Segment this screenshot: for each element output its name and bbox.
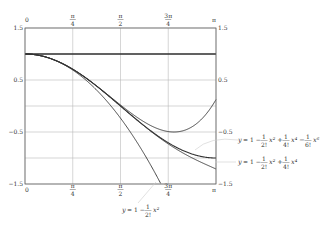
x-tick-denominator: 2 xyxy=(119,190,123,197)
fraction-denominator: 2! xyxy=(261,141,267,148)
annotation-text: x² + xyxy=(269,158,283,166)
annotation-text: x² xyxy=(153,206,160,214)
y-tick-left: −0.5 xyxy=(8,128,23,135)
fraction-numerator: 1 xyxy=(262,155,266,162)
x-tick-numerator: π xyxy=(119,12,123,19)
x-tick-numerator: 3π xyxy=(164,182,172,189)
annotation-text: y xyxy=(237,158,242,166)
leader-line xyxy=(195,139,238,150)
curve-order-2 xyxy=(25,54,161,183)
fraction-numerator: 1 xyxy=(146,203,150,210)
x-tick-top: π xyxy=(212,16,216,23)
label-fourth-order: y= 1 −12!x² +14!x⁴ xyxy=(215,155,298,170)
y-tick-right: 1.5 xyxy=(218,24,228,31)
x-tick-top: π4 xyxy=(70,12,76,27)
annotation-text: = 1 − xyxy=(243,136,261,143)
x-tick-top: π2 xyxy=(118,12,124,27)
x-tick-bottom: π xyxy=(212,186,216,193)
x-tick-numerator: π xyxy=(71,12,75,19)
x-tick-numerator: π xyxy=(119,182,123,189)
annotation-text: y xyxy=(121,206,126,214)
annotation-text: y xyxy=(237,136,242,144)
y-tick-left: 0.5 xyxy=(13,76,23,83)
fraction-denominator: 6! xyxy=(305,141,311,148)
fraction-denominator: 4! xyxy=(283,141,289,148)
fraction-denominator: 2! xyxy=(145,211,151,218)
fraction-numerator: 1 xyxy=(262,133,266,140)
fraction-numerator: 1 xyxy=(306,133,310,140)
x-tick-numerator: π xyxy=(71,182,75,189)
y-tick-right: −1.5 xyxy=(218,180,233,187)
annotation-text: = 1 − xyxy=(243,158,261,165)
x-tick-denominator: 4 xyxy=(71,20,75,27)
x-tick-denominator: 4 xyxy=(166,20,170,27)
y-tick-left: 1.5 xyxy=(13,24,23,31)
fraction-numerator: 1 xyxy=(284,155,288,162)
taylor-series-chart: 00π4π4π2π23π43π4ππ1.51.50.50.5−0.5−0.5−1… xyxy=(0,0,322,226)
leader-line xyxy=(138,182,156,203)
fraction-denominator: 2! xyxy=(261,163,267,170)
fraction-denominator: 4! xyxy=(283,163,289,170)
label-sixth-order: y= 1 −12!x² +14!x⁴ −16!x⁶ xyxy=(195,133,320,150)
y-tick-right: −0.5 xyxy=(218,128,233,135)
chart-container: 00π4π4π2π23π43π4ππ1.51.50.50.5−0.5−0.5−1… xyxy=(0,0,322,226)
y-tick-right: 0.5 xyxy=(218,76,228,83)
annotation-text: = 1 − xyxy=(127,206,145,213)
x-tick-denominator: 4 xyxy=(71,190,75,197)
y-tick-left: −1.5 xyxy=(8,180,23,187)
label-second-order: y= 1 −12!x² xyxy=(121,182,160,218)
annotation-text: x⁴ − xyxy=(291,136,305,144)
x-tick-top: 3π4 xyxy=(164,12,172,27)
annotations: y= 1 −12!x² +14!x⁴ −16!x⁶y= 1 −12!x² +14… xyxy=(121,133,320,218)
x-tick-denominator: 4 xyxy=(166,190,170,197)
annotation-text: x² + xyxy=(269,136,283,144)
x-tick-denominator: 2 xyxy=(119,20,123,27)
x-tick-top: 0 xyxy=(25,16,29,23)
x-tick-numerator: 3π xyxy=(164,12,172,19)
annotation-text: x⁴ xyxy=(291,158,298,166)
fraction-numerator: 1 xyxy=(284,133,288,140)
annotation-text: x⁶ xyxy=(313,136,320,144)
x-tick-bottom: 0 xyxy=(25,186,29,193)
x-tick-bottom: 3π4 xyxy=(164,182,172,197)
